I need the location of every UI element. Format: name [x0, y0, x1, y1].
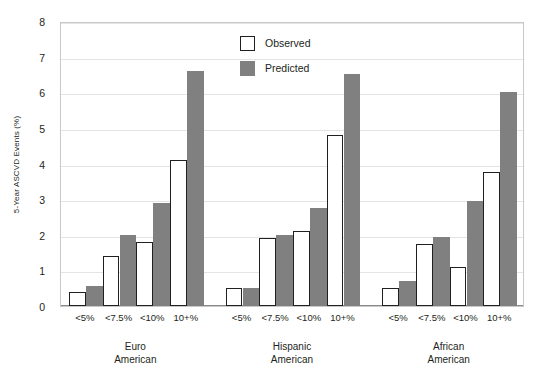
y-axis-tick: 6 — [5, 88, 45, 98]
x-axis-group-label-line1: Hispanic — [225, 340, 360, 353]
legend-label-observed: Observed — [265, 37, 311, 49]
bar-predicted-hispanic-american-1 — [276, 235, 293, 306]
y-axis-tick: 3 — [5, 195, 45, 205]
bar-observed-african-american-1 — [416, 244, 433, 306]
x-axis-group-label-line2: American — [68, 353, 203, 366]
bar-predicted-hispanic-american-3 — [344, 74, 361, 306]
x-axis-group-label: EuroAmerican — [68, 340, 203, 366]
bar-observed-euro-american-3 — [170, 160, 187, 306]
bar-observed-hispanic-american-2 — [293, 231, 310, 306]
legend-item-observed: Observed — [240, 33, 400, 53]
bar-predicted-euro-american-0 — [86, 286, 103, 306]
bar-observed-hispanic-american-1 — [259, 238, 276, 306]
bar-observed-euro-american-2 — [136, 242, 153, 306]
x-axis-category-label: 10+% — [163, 312, 209, 323]
bar-predicted-hispanic-american-2 — [310, 208, 327, 306]
x-axis-group-label-line1: Euro — [68, 340, 203, 353]
bar-observed-hispanic-american-3 — [327, 135, 344, 306]
bar-predicted-african-american-0 — [399, 281, 416, 306]
y-axis-tick: 0 — [5, 302, 45, 312]
bar-predicted-african-american-1 — [433, 237, 450, 306]
y-axis-tick: 7 — [5, 53, 45, 63]
x-axis-category-label: 10+% — [320, 312, 366, 323]
bar-observed-hispanic-american-0 — [226, 288, 243, 306]
bar-predicted-african-american-3 — [500, 92, 517, 306]
bar-chart: 5-Year ASCVD Events (%) 876543210 Observ… — [0, 0, 538, 380]
y-axis-tick: 1 — [5, 266, 45, 276]
legend-swatch-observed — [240, 36, 255, 51]
bar-observed-euro-american-0 — [69, 292, 86, 306]
bar-predicted-euro-american-3 — [187, 71, 204, 306]
x-axis-group-label-line1: African — [381, 340, 516, 353]
bar-observed-african-american-0 — [382, 288, 399, 306]
bar-predicted-euro-american-2 — [153, 203, 170, 306]
legend-swatch-predicted — [240, 61, 255, 76]
bar-observed-african-american-2 — [450, 267, 467, 306]
y-axis-tick: 4 — [5, 160, 45, 170]
legend: ObservedPredicted — [240, 33, 400, 83]
x-axis-group-label: AfricanAmerican — [381, 340, 516, 366]
bar-predicted-hispanic-american-0 — [243, 288, 260, 306]
y-axis-tick: 8 — [5, 17, 45, 27]
x-axis-category-labels: <5%<7.5%<10%10+%<5%<7.5%<10%10+%<5%<7.5%… — [60, 312, 524, 332]
y-axis-tick: 2 — [5, 231, 45, 241]
legend-label-predicted: Predicted — [265, 62, 309, 74]
x-axis-group-label-line2: American — [225, 353, 360, 366]
x-axis-category-label: 10+% — [476, 312, 522, 323]
y-axis-tick-labels: 876543210 — [0, 0, 52, 380]
bar-predicted-african-american-2 — [467, 201, 484, 306]
bar-predicted-euro-american-1 — [120, 235, 137, 306]
x-axis-group-label: HispanicAmerican — [225, 340, 360, 366]
bar-observed-african-american-3 — [483, 172, 500, 306]
bar-observed-euro-american-1 — [103, 256, 120, 306]
legend-item-predicted: Predicted — [240, 58, 400, 78]
x-axis-group-labels: EuroAmericanHispanicAmericanAfricanAmeri… — [60, 340, 524, 380]
y-axis-tick: 5 — [5, 124, 45, 134]
x-axis-group-label-line2: American — [381, 353, 516, 366]
